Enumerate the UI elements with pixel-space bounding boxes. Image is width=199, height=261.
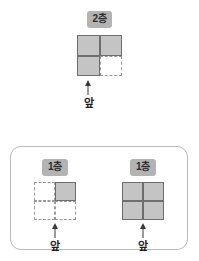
grid-cell-top-right: [100, 35, 123, 56]
floor-label-1f-left: 1층: [42, 159, 68, 176]
floor-label-1f-right: 1층: [130, 159, 156, 176]
grid-cell-top-left: [34, 182, 55, 201]
up-arrow-icon: [50, 223, 59, 238]
front-label-1f-right: 앞: [138, 241, 148, 252]
grid-cell-top-left: [122, 182, 143, 201]
grid-cell-top-right: [55, 182, 76, 201]
grid-cell-bottom-left: [77, 56, 100, 77]
grid-cell-bottom-right: [143, 201, 164, 220]
grid-cell-bottom-left: [122, 201, 143, 220]
grid-cell-bottom-right: [100, 56, 123, 77]
front-label-2f: 앞: [84, 98, 94, 109]
floor-label-2f: 2층: [87, 11, 113, 28]
front-indicator-2f: 앞: [84, 80, 94, 109]
floor-diagram-bottom-right: 1층 앞: [104, 159, 182, 252]
up-arrow-icon: [138, 223, 147, 238]
floor-diagram-bottom-left: 1층 앞: [16, 159, 94, 252]
front-label-1f-left: 앞: [50, 241, 60, 252]
cube-grid-1f-right: [122, 182, 164, 220]
answer-options-panel: 1층 앞 1층: [10, 146, 188, 250]
floor-diagram-top: 2층 앞: [0, 11, 199, 109]
grid-cell-bottom-right: [55, 201, 76, 220]
front-indicator-1f-left: 앞: [50, 223, 60, 252]
grid-cell-top-left: [77, 35, 100, 56]
cube-grid-2f: [77, 35, 122, 76]
cube-grid-1f-left: [34, 182, 76, 220]
front-indicator-1f-right: 앞: [138, 223, 148, 252]
up-arrow-icon: [84, 80, 93, 95]
grid-cell-bottom-left: [34, 201, 55, 220]
grid-cell-top-right: [143, 182, 164, 201]
